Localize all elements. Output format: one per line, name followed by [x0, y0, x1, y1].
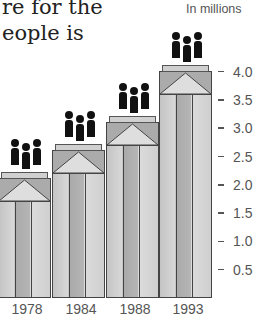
- bar-1988: [106, 113, 159, 298]
- y-tick: 2.5: [218, 149, 252, 165]
- y-tick: 3.5: [218, 92, 252, 108]
- y-tick: 1.0: [218, 233, 252, 249]
- people-pictogram-icon: [171, 32, 202, 58]
- unit-label: In millions: [186, 2, 242, 16]
- y-tick: 4.0: [218, 64, 252, 80]
- headline-line-2: eople is: [2, 20, 103, 46]
- x-tick-label: 1978: [0, 301, 54, 317]
- people-pictogram-icon: [118, 83, 149, 109]
- y-tick: 0.5: [218, 262, 252, 278]
- bar-1984: [52, 141, 105, 298]
- y-tick: 3.0: [218, 120, 252, 136]
- bar-1978: [0, 169, 51, 298]
- x-tick-label: 1993: [161, 301, 215, 317]
- y-tick: 2.0: [218, 177, 252, 193]
- people-pictogram-icon: [10, 139, 41, 165]
- people-pictogram-icon: [64, 111, 95, 137]
- x-tick-label: 1988: [108, 301, 162, 317]
- y-tick: 1.5: [218, 205, 252, 221]
- x-tick-label: 1984: [54, 301, 108, 317]
- headline-line-1: re for the: [2, 0, 103, 20]
- bar-1993: [159, 62, 212, 298]
- headline-text: re for the eople is: [2, 0, 103, 46]
